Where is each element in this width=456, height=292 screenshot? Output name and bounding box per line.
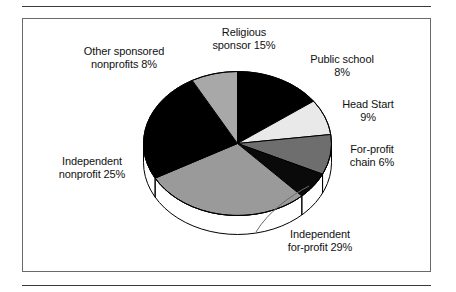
slice-label-religious-sponsor: Religious sponsor 15% — [185, 26, 303, 51]
slice-label-public-school: Public school 8% — [288, 53, 396, 78]
slice-label-line2: nonprofit 25% — [59, 168, 126, 180]
slice-label-line2: 8% — [334, 66, 350, 78]
page-rule-top — [22, 6, 431, 7]
slice-label-line2: 9% — [360, 111, 376, 123]
slice-label-for-profit-chain: For-profit chain 6% — [328, 143, 416, 168]
slice-label-line1: Independent — [62, 155, 122, 167]
slice-label-line1: For-profit — [350, 143, 394, 155]
slice-label-line2: nonprofits 8% — [91, 58, 157, 70]
slice-label-independent-for-profit: Independent for-profit 29% — [258, 228, 382, 253]
slice-label-line2: for-profit 29% — [288, 241, 353, 253]
slice-label-line2: chain 6% — [350, 156, 394, 168]
slice-label-line1: Independent — [290, 228, 350, 240]
slice-label-head-start: Head Start 9% — [320, 98, 416, 123]
page-rule-bottom — [22, 285, 431, 286]
slice-label-line1: Public school — [310, 53, 374, 65]
slice-label-line1: Religious — [222, 26, 266, 38]
slice-label-line1: Head Start — [342, 98, 394, 110]
slice-label-line1: Other sponsored — [84, 45, 164, 57]
slice-label-independent-nonprofit: Independent nonprofit 25% — [30, 155, 154, 180]
slice-label-line2: sponsor 15% — [212, 39, 275, 51]
slice-label-other-sponsored-nonprofits: Other sponsored nonprofits 8% — [58, 45, 190, 70]
